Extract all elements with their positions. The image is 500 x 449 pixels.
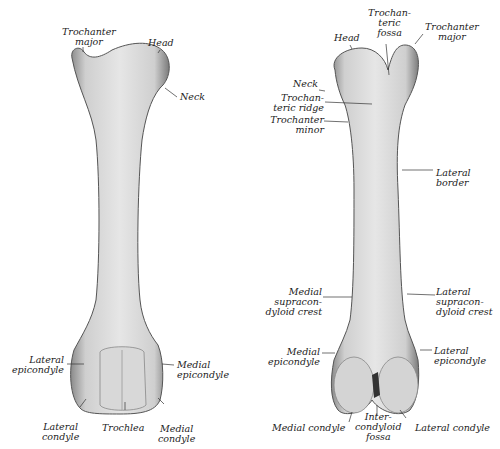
label-neck-posterior: Neck xyxy=(280,79,318,89)
label-medial-epicondyle-posterior: Medial epicondyle xyxy=(262,347,320,367)
label-trochanteric-fossa: Trochan- teric fossa xyxy=(368,8,411,38)
label-medial-supracondyloid-crest: Medial supracon- dyloid crest xyxy=(260,287,322,317)
label-trochlea: Trochlea xyxy=(102,423,144,433)
label-medial-condyle-posterior: Medial condyle xyxy=(272,423,345,433)
label-trochanteric-ridge: Trochan- teric ridge xyxy=(260,93,324,113)
label-intercondyloid-fossa: Inter- condyloid fossa xyxy=(355,412,401,442)
bone-illustrations xyxy=(0,0,500,449)
label-lateral-epicondyle-posterior: Lateral epicondyle xyxy=(434,346,486,366)
label-lateral-condyle-posterior: Lateral condyle xyxy=(415,423,490,433)
label-head-anterior: Head xyxy=(148,38,174,48)
label-lateral-condyle-anterior: Lateral condyle xyxy=(42,422,79,442)
label-trochanter-major-anterior: Trochanter major xyxy=(62,27,116,47)
label-neck-anterior: Neck xyxy=(180,92,205,102)
label-medial-condyle-anterior: Medial condyle xyxy=(158,424,195,444)
posterior-femur xyxy=(331,45,418,414)
femur-diagram: Trochanter major Head Neck Lateral epico… xyxy=(0,0,500,449)
label-lateral-border: Lateral border xyxy=(436,168,471,188)
label-trochanter-major-posterior: Trochanter major xyxy=(425,22,479,42)
label-lateral-epicondyle: Lateral epicondyle xyxy=(8,355,64,375)
label-trochanter-minor: Trochanter minor xyxy=(260,115,324,135)
label-head-posterior: Head xyxy=(334,33,360,43)
label-medial-epicondyle-anterior: Medial epicondyle xyxy=(177,360,229,380)
anterior-femur xyxy=(71,43,170,414)
label-lateral-supracondyloid-crest: Lateral supracon- dyloid crest xyxy=(436,287,493,317)
